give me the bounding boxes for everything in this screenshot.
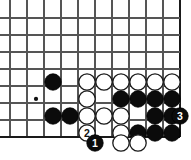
stone-white	[113, 74, 129, 90]
stone-black	[113, 91, 129, 107]
star-point	[34, 97, 38, 101]
white-stone-icon	[79, 108, 95, 124]
stone-white	[96, 74, 112, 90]
stone-black	[164, 125, 180, 141]
white-stone-icon	[164, 74, 180, 90]
move-stone-1: 1	[87, 135, 103, 151]
stone-white	[79, 108, 95, 124]
star-points	[34, 97, 38, 101]
move-stone-3: 3	[172, 108, 188, 124]
white-stone-icon	[130, 135, 146, 151]
stone-white	[113, 135, 129, 151]
white-stone-icon	[113, 135, 129, 151]
stone-black	[130, 91, 146, 107]
black-stone-icon	[164, 125, 180, 141]
stone-white	[147, 74, 163, 90]
go-board-canvas: 321	[0, 0, 191, 160]
white-stone-icon	[96, 74, 112, 90]
move-number-label: 3	[177, 110, 183, 122]
stone-white	[130, 74, 146, 90]
black-stone-icon	[62, 108, 78, 124]
stone-black	[147, 91, 163, 107]
stone-black	[45, 108, 61, 124]
white-stone-icon	[79, 74, 95, 90]
stone-black	[164, 91, 180, 107]
stone-white	[113, 108, 129, 124]
move-number-label: 1	[92, 137, 98, 149]
stone-black	[147, 125, 163, 141]
white-stone-icon	[130, 74, 146, 90]
black-stone-icon	[113, 91, 129, 107]
white-stone-icon	[79, 91, 95, 107]
white-stone-icon	[113, 108, 129, 124]
white-stone-icon	[147, 74, 163, 90]
white-stone-icon	[96, 108, 112, 124]
black-stone-icon	[147, 108, 163, 124]
stone-white	[130, 135, 146, 151]
black-stone-icon	[147, 125, 163, 141]
stone-white	[96, 108, 112, 124]
black-stone-icon	[147, 91, 163, 107]
stone-black	[45, 74, 61, 90]
black-stone-icon	[45, 108, 61, 124]
black-stone-icon	[45, 74, 61, 90]
black-stone-icon	[130, 91, 146, 107]
white-stone-icon	[113, 74, 129, 90]
stones-layer: 321	[45, 74, 188, 151]
stone-black	[147, 108, 163, 124]
stone-black	[62, 108, 78, 124]
stone-white	[79, 74, 95, 90]
stone-white	[164, 74, 180, 90]
black-stone-icon	[164, 91, 180, 107]
go-board-diagram: 321	[0, 0, 191, 160]
stone-white	[79, 91, 95, 107]
